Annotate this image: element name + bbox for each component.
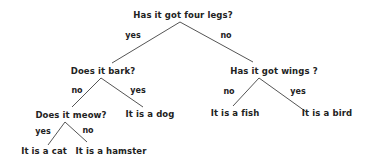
- leaf-cat: It is a cat: [21, 146, 67, 156]
- edge-label-bark-yes: yes: [130, 86, 145, 95]
- leaf-hamster: It is a hamster: [75, 146, 146, 156]
- edge-label-meow-yes: yes: [35, 127, 50, 136]
- leaf-bird: It is a bird: [302, 108, 352, 118]
- node-wings-question: Has it got wings ?: [230, 66, 317, 76]
- decision-tree: Has it got four legs? Does it bark? Has …: [0, 0, 368, 165]
- leaf-fish: It is a fish: [211, 108, 260, 118]
- edge-wings-fish: [233, 78, 259, 106]
- node-meow-question: Does it meow?: [35, 110, 106, 120]
- edge-label-bark-no: no: [71, 86, 82, 95]
- edge-label-wings-yes: yes: [290, 87, 305, 96]
- leaf-dog: It is a dog: [126, 109, 175, 119]
- node-root-question: Has it got four legs?: [133, 10, 232, 20]
- edge-label-root-yes: yes: [125, 31, 140, 40]
- edge-label-root-no: no: [220, 31, 231, 40]
- edge-root-bark: [112, 22, 180, 63]
- edge-root-wings: [180, 22, 253, 62]
- node-bark-question: Does it bark?: [71, 66, 136, 76]
- edge-label-meow-no: no: [82, 126, 93, 135]
- edge-label-wings-no: no: [223, 87, 234, 96]
- edge-lines: [0, 0, 368, 165]
